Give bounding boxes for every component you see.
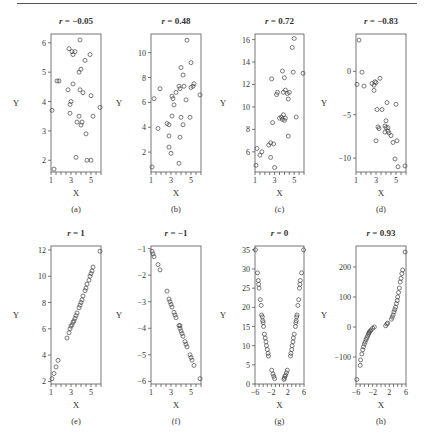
data-point-marker: [397, 286, 401, 290]
data-point-marker: [84, 132, 88, 136]
data-point-marker: [298, 279, 302, 283]
y-axis-label: Y: [321, 310, 328, 320]
data-point-marker: [83, 58, 87, 62]
scatter-panel-g: r = 0−6−22605101520253035XY(g): [220, 228, 306, 426]
scatter-panel-h: r = 0.93−6−226−1000100200XY(h): [321, 228, 408, 426]
scatter-panel-e: r = 113524681012XY(e): [13, 228, 102, 426]
data-point-marker: [75, 120, 79, 124]
x-tick-label: 1: [149, 176, 153, 185]
data-point-marker: [90, 269, 94, 273]
data-point-marker: [192, 82, 196, 86]
x-tick-label: −2: [368, 388, 377, 397]
data-point-marker: [79, 301, 83, 305]
y-tick-label: −1: [137, 245, 146, 254]
y-tick-label: −100: [334, 353, 351, 362]
data-point-marker: [259, 303, 263, 307]
y-tick-label: 6: [42, 39, 46, 48]
data-point-marker: [89, 158, 93, 162]
plot-frame: [356, 246, 406, 384]
y-tick-label: 6: [142, 98, 146, 107]
data-point-marker: [297, 298, 301, 302]
x-tick-label: 3: [273, 176, 277, 185]
y-axis-label: Y: [220, 310, 227, 320]
data-point-marker: [177, 84, 181, 88]
y-tick-label: 8: [42, 299, 46, 308]
data-point-marker: [271, 372, 275, 376]
data-point-marker: [374, 139, 378, 143]
data-point-marker: [88, 53, 92, 57]
data-point-marker: [358, 363, 362, 367]
y-tick-label: 12: [38, 246, 46, 255]
scatter-panel-a: r = −0.0513523456XY(a): [13, 16, 102, 214]
panel-title: r = 0.72: [265, 16, 294, 26]
data-point-marker: [280, 69, 284, 73]
data-point-marker: [152, 97, 156, 101]
data-point-marker: [294, 115, 298, 119]
data-point-marker: [158, 87, 162, 91]
data-point-marker: [293, 325, 297, 329]
data-point-marker: [264, 340, 268, 344]
data-point-marker: [173, 313, 177, 317]
x-tick-label: 3: [69, 176, 73, 185]
y-tick-label: 14: [242, 58, 250, 67]
r-value: = −0.05: [63, 16, 94, 26]
data-point-marker: [300, 271, 304, 275]
r-value: = −0.83: [368, 16, 399, 26]
r-value: = 0: [274, 228, 289, 238]
y-axis-label: Y: [13, 98, 20, 108]
data-point-marker: [56, 358, 60, 362]
data-point-marker: [183, 340, 187, 344]
data-point-marker: [172, 310, 176, 314]
data-point-marker: [291, 340, 295, 344]
data-point-marker: [399, 276, 403, 280]
x-tick-label: 1: [253, 176, 257, 185]
y-tick-label: 8: [246, 125, 250, 134]
data-point-marker: [182, 84, 186, 88]
data-point-marker: [77, 306, 81, 310]
x-tick-label: 5: [394, 176, 398, 185]
data-point-marker: [52, 167, 56, 171]
y-tick-label: 200: [339, 263, 351, 272]
data-point-marker: [180, 332, 184, 336]
panel-caption-letter: (b): [171, 204, 181, 214]
data-point-marker: [167, 134, 171, 138]
data-point-marker: [270, 368, 274, 372]
data-point-marker: [386, 321, 390, 325]
data-point-marker: [170, 114, 174, 118]
data-point-marker: [396, 165, 400, 169]
data-point-marker: [85, 158, 89, 162]
data-point-marker: [85, 282, 89, 286]
data-point-marker: [282, 76, 286, 80]
data-point-marker: [192, 363, 196, 367]
data-point-marker: [292, 36, 296, 40]
data-point-marker: [188, 353, 192, 357]
data-point-marker: [167, 297, 171, 301]
data-point-marker: [359, 358, 363, 362]
y-tick-label: 25: [242, 284, 250, 293]
data-point-marker: [152, 255, 156, 259]
data-point-marker: [271, 121, 275, 125]
data-point-marker: [266, 354, 270, 358]
y-tick-label: 16: [242, 36, 250, 45]
data-point-marker: [91, 114, 95, 118]
y-tick-label: 12: [242, 80, 250, 89]
data-point-marker: [73, 50, 77, 54]
data-point-marker: [393, 308, 397, 312]
data-point-marker: [362, 84, 366, 88]
data-point-marker: [302, 248, 306, 252]
data-point-marker: [81, 91, 85, 95]
data-point-marker: [67, 331, 71, 335]
data-point-marker: [269, 155, 273, 159]
plot-frame: [255, 34, 304, 172]
data-point-marker: [98, 105, 102, 109]
data-point-marker: [291, 70, 295, 74]
scatterplot-grid-figure: r = −0.0513523456XY(a)r = 0.48135246810X…: [0, 0, 427, 444]
data-point-marker: [172, 103, 176, 107]
y-tick-label: 10: [242, 342, 250, 351]
x-tick-label: 2: [387, 388, 391, 397]
data-point-marker: [83, 289, 87, 293]
panel-title: r = −1: [165, 228, 188, 238]
data-point-marker: [395, 139, 399, 143]
data-point-marker: [89, 94, 93, 98]
y-tick-label: −4: [137, 324, 146, 333]
